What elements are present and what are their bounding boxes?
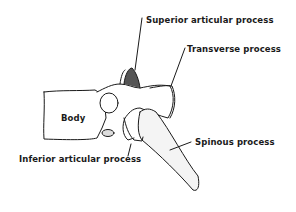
vertebra-illustration bbox=[0, 0, 296, 212]
label-transverse-process: Transverse process bbox=[187, 44, 281, 54]
label-spinous-process: Spinous process bbox=[195, 137, 275, 147]
label-body: Body bbox=[61, 113, 85, 123]
label-inferior-articular-process: Inferior articular process bbox=[19, 154, 141, 164]
label-superior-articular-process: Superior articular process bbox=[146, 15, 274, 25]
vertebra-diagram: Superior articular process Transverse pr… bbox=[0, 0, 296, 212]
spinous-process-shape bbox=[138, 109, 199, 190]
